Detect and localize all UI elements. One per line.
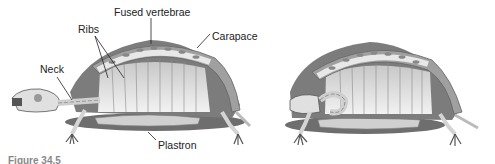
label-neck: Neck <box>40 63 65 75</box>
rib-cavity <box>98 62 210 112</box>
label-ribs: Ribs <box>78 23 99 35</box>
label-carapace: Carapace <box>212 30 258 42</box>
turtle-skeleton-diagram: Fused vertebrae Ribs Carapace Neck Plast… <box>0 0 495 164</box>
label-fused-vertebrae: Fused vertebrae <box>114 6 191 18</box>
tail-right <box>455 115 478 128</box>
label-plastron: Plastron <box>158 139 197 151</box>
figure-caption: Figure 34.5 <box>8 155 61 164</box>
turtle-neck-extended <box>12 40 250 145</box>
skull-retracted <box>290 95 320 114</box>
turtle-head-retracted <box>285 42 478 146</box>
